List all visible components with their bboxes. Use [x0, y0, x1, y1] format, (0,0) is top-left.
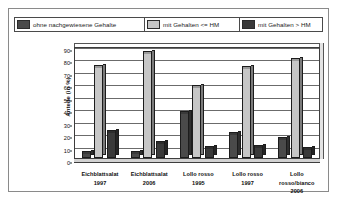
legend-swatch-icon	[17, 20, 30, 29]
bar-top-face	[192, 85, 201, 88]
bar-front-face	[291, 60, 300, 158]
x-category-label: Lollorosso/bianco2006	[269, 170, 325, 196]
bar-top-face	[254, 145, 263, 148]
bar	[303, 149, 312, 158]
bar-top-face	[229, 132, 238, 135]
x-category-label-line: 1997	[220, 179, 276, 188]
x-category-label-line: 2006	[121, 179, 177, 188]
chart-legend: ohne nachgewiesene Gehaltemit Gehalten <…	[14, 17, 323, 32]
legend-item[interactable]: mit Gehalten > HM	[239, 18, 322, 31]
bar-front-face	[180, 113, 189, 158]
bar-front-face	[242, 68, 251, 158]
bar-group	[223, 48, 272, 158]
plot-floor	[74, 159, 320, 163]
bar-group	[272, 48, 321, 158]
bar-group	[124, 48, 173, 158]
bar-side-face	[214, 145, 217, 155]
bar	[291, 60, 300, 158]
legend-swatch-icon	[242, 20, 255, 29]
bar-front-face	[107, 132, 116, 158]
bar	[254, 147, 263, 158]
plot-area: Anteile (in %) 0102030405060708090	[40, 43, 325, 168]
x-category-label: Lollo rosso1997	[220, 170, 276, 187]
y-tick-mark	[70, 88, 72, 89]
legend-item-label: ohne nachgewiesene Gehalte	[33, 21, 120, 28]
bar-side-face	[165, 140, 168, 155]
y-tick-mark	[70, 138, 72, 139]
y-tick-mark	[70, 51, 72, 52]
chart-figure: ohne nachgewiesene Gehaltemit Gehalten <…	[0, 0, 339, 208]
bar	[205, 148, 214, 158]
bar-top-face	[242, 66, 251, 69]
y-axis-ticks: 0102030405060708090	[52, 47, 72, 159]
legend-item[interactable]: mit Gehalten <= HM	[144, 18, 239, 31]
bar-front-face	[143, 53, 152, 158]
bar	[143, 53, 152, 158]
bar	[242, 68, 251, 158]
bar	[94, 67, 103, 158]
x-category-label-line: Eichblattsalat	[121, 170, 177, 179]
legend-item[interactable]: ohne nachgewiesene Gehalte	[15, 18, 144, 31]
x-category-label-line: 1997	[72, 179, 128, 188]
x-category-label-line: Lollo	[269, 170, 325, 179]
bar-side-face	[312, 146, 315, 155]
legend-item-label: mit Gehalten > HM	[258, 21, 315, 28]
bar-front-face	[94, 67, 103, 158]
y-tick-mark	[70, 63, 72, 64]
bar-front-face	[254, 147, 263, 158]
x-category-label-line: Eichblattsalat	[72, 170, 128, 179]
x-category-label: Eichblattsalat2006	[121, 170, 177, 187]
legend-item-label: mit Gehalten <= HM	[163, 21, 223, 28]
y-tick-mark	[70, 113, 72, 114]
bar-top-face	[205, 146, 214, 149]
bar-front-face	[278, 139, 287, 158]
bar-top-face	[143, 51, 152, 54]
bar-top-face	[303, 147, 312, 150]
y-tick-mark	[70, 163, 72, 164]
bars-layer	[75, 48, 319, 158]
bar	[229, 134, 238, 158]
bar-top-face	[82, 151, 91, 154]
bar-group	[75, 48, 124, 158]
bar-front-face	[156, 143, 165, 158]
bar	[82, 153, 91, 158]
y-tick-mark	[70, 100, 72, 101]
bar-side-face	[263, 144, 266, 155]
bar	[180, 113, 189, 158]
bar-top-face	[94, 65, 103, 68]
bar-top-face	[156, 141, 165, 144]
y-tick-mark	[70, 150, 72, 151]
bar-side-face	[201, 84, 204, 155]
y-tick-mark	[70, 125, 72, 126]
bar-front-face	[192, 87, 201, 158]
bar-top-face	[180, 111, 189, 114]
x-category-label: Eichblattsalat1997	[72, 170, 128, 187]
x-category-label-line: 2006	[269, 187, 325, 196]
bar-front-face	[205, 148, 214, 158]
plot-box	[74, 47, 320, 159]
bar-top-face	[278, 137, 287, 140]
bar	[192, 87, 201, 158]
bar-side-face	[251, 65, 254, 155]
legend-swatch-icon	[147, 20, 160, 29]
bar-side-face	[300, 57, 303, 155]
plot-face	[74, 47, 320, 159]
bar-side-face	[152, 50, 155, 155]
bar	[107, 132, 116, 158]
bar	[278, 139, 287, 158]
bar	[131, 153, 140, 158]
bar	[156, 143, 165, 158]
x-category-label-line: Lollo rosso	[220, 170, 276, 179]
x-axis-category-labels: Eichblattsalat1997Eichblattsalat2006Loll…	[74, 170, 324, 204]
bar-front-face	[303, 149, 312, 158]
bar-top-face	[291, 58, 300, 61]
x-category-label-line: rosso/bianco	[269, 179, 325, 188]
x-category-label-line: 1995	[170, 179, 226, 188]
bar-side-face	[116, 129, 119, 155]
bar-front-face	[229, 134, 238, 158]
bar-group	[173, 48, 222, 158]
x-category-label-line: Lollo rosso	[170, 170, 226, 179]
y-tick-mark	[70, 75, 72, 76]
bar-top-face	[107, 130, 116, 133]
x-category-label: Lollo rosso1995	[170, 170, 226, 187]
